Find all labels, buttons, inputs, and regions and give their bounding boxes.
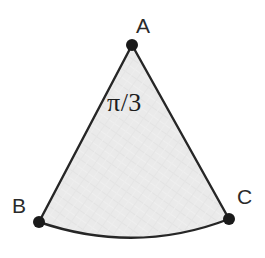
sector-figure: A B C π/3 (0, 0, 265, 258)
vertex-label-c: C (237, 186, 252, 207)
vertex-dot-a (126, 39, 138, 51)
angle-label: π/3 (107, 90, 142, 116)
vertex-label-a: A (136, 15, 150, 36)
vertex-dot-b (33, 216, 45, 228)
sector-diagram-svg (0, 0, 265, 258)
vertex-label-b: B (12, 195, 26, 216)
vertex-dot-c (223, 213, 235, 225)
